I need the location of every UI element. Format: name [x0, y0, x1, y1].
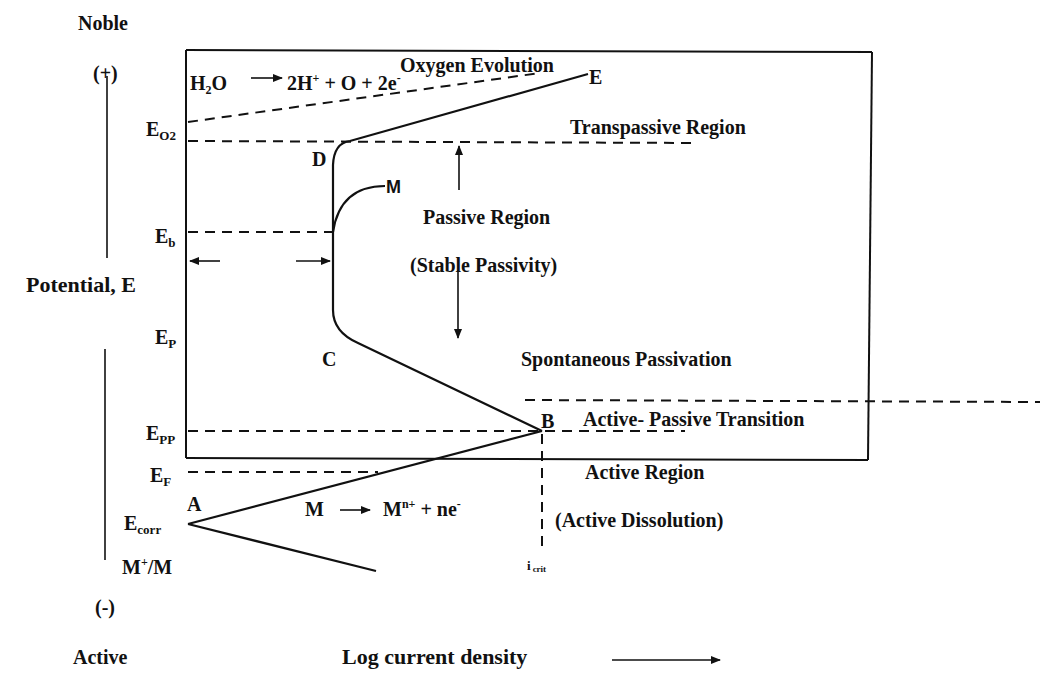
metal-dissolution-reaction: M Mn+ + ne- — [305, 497, 461, 520]
x-axis-label: Log current density — [342, 644, 527, 669]
level-ecorr: Ecorr — [124, 512, 161, 537]
water-oxidation-reaction: H2O 2H+ + O + 2e- — [190, 71, 401, 97]
negative-sign: (-) — [95, 596, 115, 619]
region-stable-passivity: (Stable Passivity) — [410, 254, 557, 277]
region-active: Active Region — [585, 461, 704, 484]
region-oxygen-evolution: Oxygen Evolution — [400, 54, 554, 77]
point-c: C — [322, 348, 336, 370]
polarization-diagram: Noble (+) Potential, E (-) Active Log cu… — [0, 0, 1051, 690]
region-spontaneous-passivation: Spontaneous Passivation — [521, 348, 732, 371]
point-d: D — [312, 148, 326, 170]
potential-axis — [105, 76, 107, 560]
level-ep: EP — [155, 326, 176, 351]
point-b: B — [541, 410, 554, 432]
svg-text:H2O: H2O — [190, 72, 227, 97]
region-passive: Passive Region — [423, 206, 550, 229]
positive-sign: (+) — [93, 62, 118, 85]
active-label: Active — [73, 646, 128, 668]
icrit-label: icrit — [527, 558, 546, 574]
potential-axis-label: Potential, E — [26, 272, 136, 297]
level-eb: Eb — [155, 225, 176, 250]
svg-text:M: M — [305, 498, 324, 520]
region-transpassive: Transpassive Region — [570, 116, 746, 139]
level-epp: EPP — [146, 422, 175, 447]
svg-text:Mn+ + ne-: Mn+ + ne- — [383, 497, 461, 520]
passive-range-arrows — [458, 146, 459, 338]
region-active-dissolution: (Active Dissolution) — [555, 509, 723, 532]
polarization-curve — [188, 74, 588, 571]
level-eo2: EO2 — [146, 118, 176, 143]
region-active-passive-transition: Active- Passive Transition — [583, 408, 804, 430]
point-e: E — [589, 66, 602, 88]
level-ef: EF — [150, 464, 171, 489]
point-m: M — [386, 177, 401, 197]
level-mm: M+/M — [122, 555, 172, 578]
svg-text:2H+ + O + 2e-: 2H+ + O + 2e- — [287, 71, 401, 94]
noble-label: Noble — [78, 12, 128, 34]
point-a: A — [187, 493, 202, 515]
